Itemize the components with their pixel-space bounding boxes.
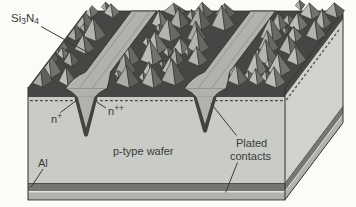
plated-rear-contact-front: [28, 192, 285, 199]
layer-highlight-front: [28, 191, 285, 192]
solar-cell-diagram: Si3N4 n+ n++ p-type wafer Al Plated cont…: [0, 0, 356, 207]
al-layer-front: [28, 184, 285, 191]
rear-layers: [28, 184, 285, 200]
al-label: Al: [38, 157, 48, 169]
solar-cell-figure: Si3N4 n+ n++ p-type wafer Al Plated cont…: [0, 0, 356, 207]
plated-contacts-label-line1: Plated: [236, 137, 267, 149]
p-type-wafer-label: p-type wafer: [113, 145, 174, 157]
plated-contacts-label-line2: contacts: [230, 150, 271, 162]
